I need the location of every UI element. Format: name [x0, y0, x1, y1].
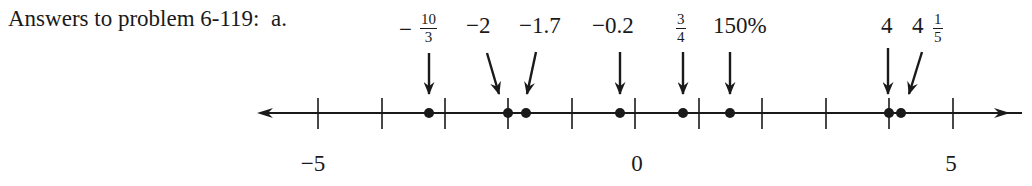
arrow-neg-one-point-seven-icon	[527, 52, 536, 94]
point-neg-zero-point-two	[615, 108, 625, 118]
point-four	[884, 108, 894, 118]
tick-label-5: 5	[945, 152, 957, 175]
pointer-arrows	[429, 48, 922, 94]
axis-line	[257, 108, 1022, 118]
point-four-one-fifth	[896, 108, 906, 118]
arrow-four-one-fifth-icon	[909, 52, 922, 94]
point-neg-ten-thirds	[424, 108, 434, 118]
point-150-percent	[725, 108, 735, 118]
point-three-fourths	[678, 108, 688, 118]
tick-label-0: 0	[631, 152, 643, 175]
number-line-figure: Answers to problem 6-119: a. − 10 3 −2 −…	[0, 0, 1032, 186]
tick-label-neg5: −5	[301, 152, 325, 175]
point-neg-two	[503, 108, 513, 118]
arrow-neg-two-icon	[487, 53, 499, 94]
point-neg-one-point-seven	[521, 108, 531, 118]
number-line-drawing	[0, 0, 1032, 186]
